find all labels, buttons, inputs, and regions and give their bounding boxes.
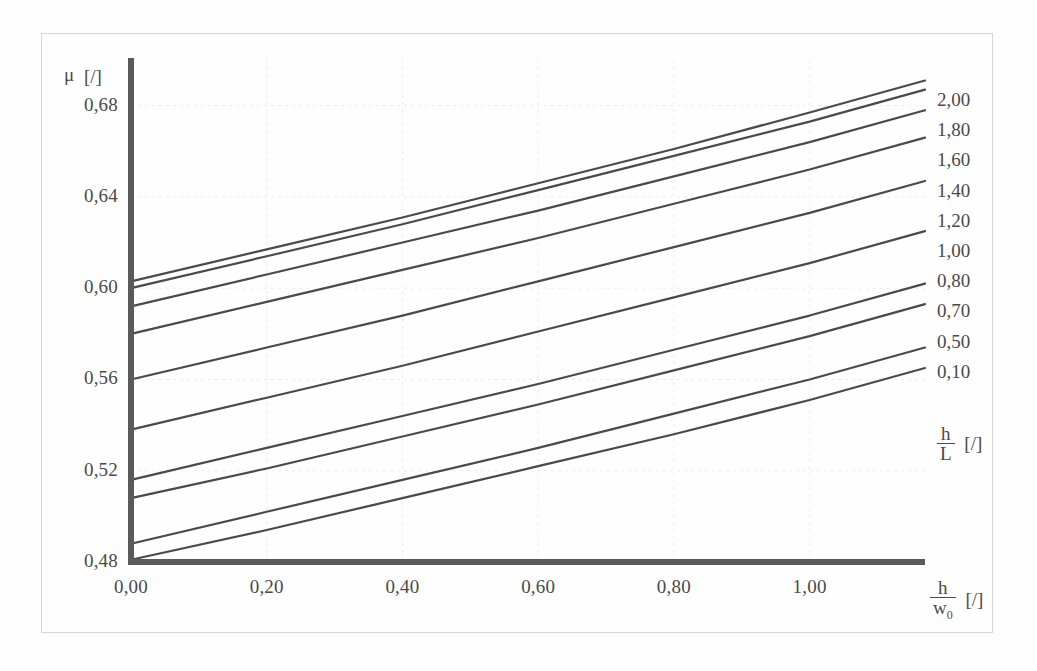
axis-lines (128, 58, 925, 562)
curve-label-2-00: 2,00 (937, 89, 970, 111)
figure-container: μ [/] 0,480,520,560,600,640,68 0,000,200… (0, 0, 1037, 671)
x-tick-label: 0,00 (91, 576, 171, 598)
curve-label-0-80: 0,80 (937, 270, 970, 292)
y-axis-unit: [/] (84, 66, 102, 88)
curve-label-0-50: 0,50 (937, 331, 970, 353)
x-axis-denominator: w0 (930, 597, 956, 621)
curve-label-1-20: 1,20 (937, 210, 970, 232)
y-tick-label: 0,68 (56, 94, 118, 116)
chart-canvas (0, 0, 1037, 671)
series-line-4 (131, 181, 925, 380)
y-tick-label: 0,64 (56, 185, 118, 207)
legend-denominator: L (937, 443, 955, 463)
series-line-3 (131, 138, 925, 334)
y-tick-label: 0,56 (56, 367, 118, 389)
series-line-8 (131, 348, 925, 544)
legend-fraction: h L (937, 424, 955, 464)
curve-label-1-40: 1,40 (937, 180, 970, 202)
curve-label-1-00: 1,00 (937, 240, 970, 262)
series-group (131, 81, 925, 560)
curve-label-1-60: 1,60 (937, 149, 970, 171)
y-tick-label: 0,60 (56, 276, 118, 298)
grid-lines (131, 60, 925, 562)
legend-numerator: h (937, 424, 955, 443)
curve-label-0-10: 0,10 (937, 361, 970, 383)
curve-label-0-70: 0,70 (937, 300, 970, 322)
legend-unit: [/] (964, 433, 982, 455)
series-line-1 (131, 90, 925, 289)
x-tick-label: 1,00 (770, 576, 850, 598)
x-axis-fraction: h w0 (930, 578, 956, 621)
x-tick-label: 0,20 (227, 576, 307, 598)
y-tick-label: 0,48 (56, 550, 118, 572)
series-line-0 (131, 81, 925, 282)
x-tick-label: 0,80 (634, 576, 714, 598)
series-line-9 (131, 368, 925, 560)
y-axis-symbol: μ (64, 64, 74, 85)
x-axis-title: h w0 [/] (930, 578, 983, 621)
x-axis-unit: [/] (965, 589, 983, 611)
y-tick-label: 0,52 (56, 459, 118, 481)
legend-title: h L [/] (937, 424, 982, 464)
x-tick-label: 0,40 (362, 576, 442, 598)
x-axis-numerator: h (930, 578, 956, 597)
y-axis-title: μ [/] (64, 64, 102, 88)
curve-label-1-80: 1,80 (937, 119, 970, 141)
plot-area (0, 0, 1037, 671)
x-tick-label: 0,60 (498, 576, 578, 598)
series-line-2 (131, 110, 925, 306)
